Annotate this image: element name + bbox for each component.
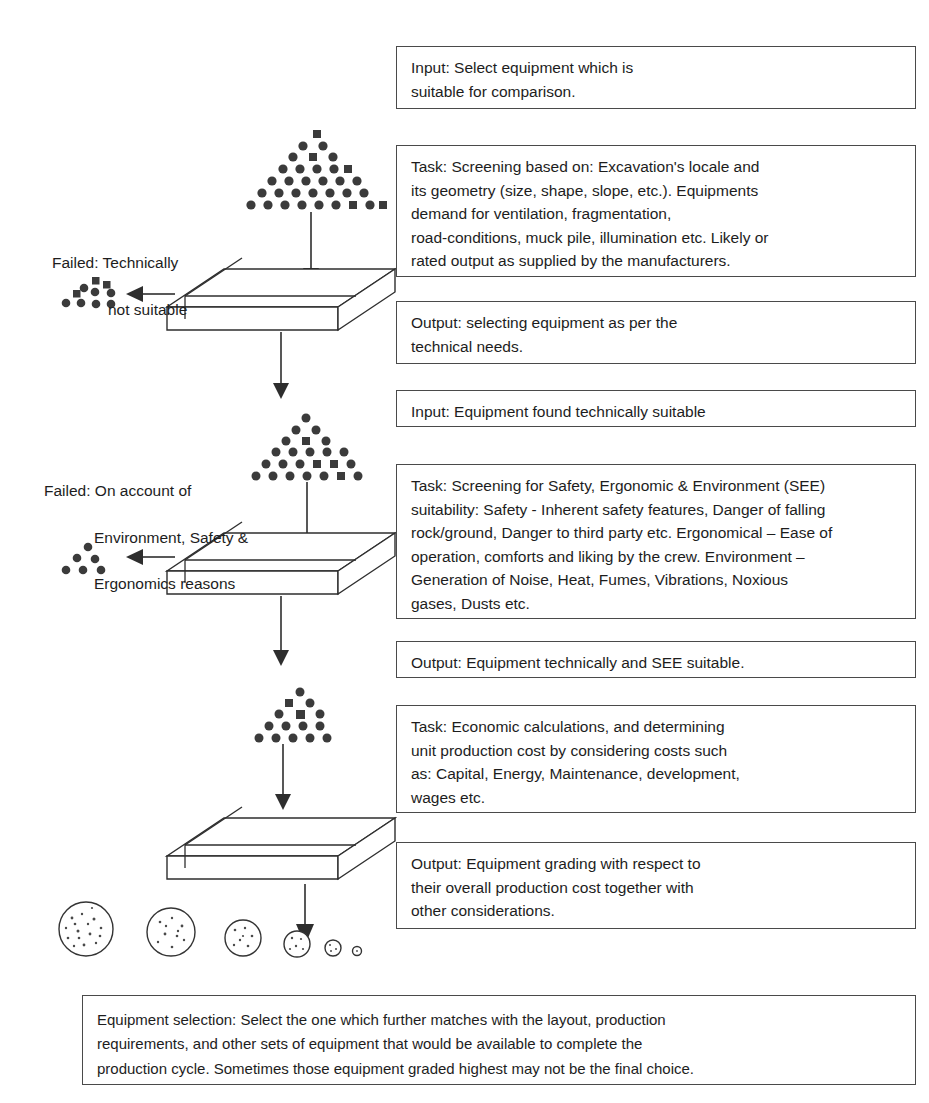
output-equipment-grading-box: Output: Equipment grading with respect t… [396, 842, 916, 929]
task-see-screening-box: Task: Screening for Safety, Ergonomic & … [396, 464, 916, 619]
flowchart-page: Input: Select equipment which is suitabl… [0, 0, 929, 1103]
screening-sieve-slab-icon [167, 807, 395, 879]
equipment-population-pyramid-icon [255, 688, 332, 743]
down-arrow-icon [275, 744, 291, 810]
task-technical-screening-box: Task: Screening based on: Excavation's l… [396, 145, 916, 277]
input-select-equipment-box: Input: Select equipment which is suitabl… [396, 46, 916, 109]
failed-technically-not-suitable-label: Failed: Technically not suitable [52, 228, 352, 344]
failed-see-label-line-1: Failed: On account of [44, 479, 364, 502]
output-see-suitable-box: Output: Equipment technically and SEE su… [396, 641, 916, 678]
failed-label-line-2: not suitable [52, 298, 352, 321]
task-economic-calculations-box: Task: Economic calculations, and determi… [396, 705, 916, 813]
failed-label-line-1: Failed: Technically [52, 251, 352, 274]
equipment-selection-summary-box: Equipment selection: Select the one whic… [82, 995, 916, 1085]
failed-see-label-line-3: Ergonomics reasons [44, 572, 364, 595]
equipment-population-pyramid-icon [246, 130, 387, 210]
input-technically-suitable-box: Input: Equipment found technically suita… [396, 390, 916, 427]
graded-equipment-rocks-icon [59, 902, 362, 957]
failed-see-reasons-label: Failed: On account of Environment, Safet… [44, 456, 364, 619]
failed-see-label-line-2: Environment, Safety & [44, 526, 364, 549]
output-technical-needs-box: Output: selecting equipment as per the t… [396, 301, 916, 364]
